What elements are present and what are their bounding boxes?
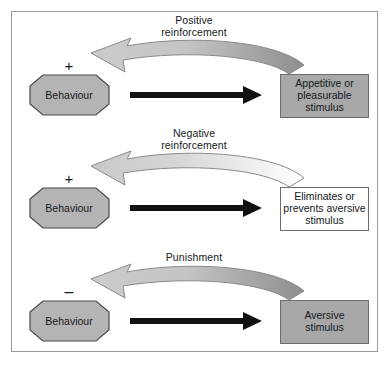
curved-arrow-punishment xyxy=(91,264,304,300)
behaviour-label-negative: Behaviour xyxy=(23,202,115,214)
stimulus-box-negative: Eliminates or prevents aversive stimulus xyxy=(280,187,369,231)
diagram-canvas: Positive reinforcement + Behaviour xyxy=(0,0,390,365)
black-arrow-negative xyxy=(130,199,262,217)
diagram-frame: Positive reinforcement + Behaviour xyxy=(11,11,378,352)
black-arrow-punishment xyxy=(130,312,262,330)
stimulus-box-punishment: Aversive stimulus xyxy=(280,300,369,344)
row-negative-reinforcement: Negative reinforcement + Behaviour Elimi… xyxy=(12,125,379,238)
sign-punishment: – xyxy=(61,284,77,299)
curved-arrow-negative xyxy=(91,151,304,187)
row-punishment: Punishment – Behaviour Aversive stimulus xyxy=(12,238,379,351)
behaviour-label-positive: Behaviour xyxy=(23,89,115,101)
behaviour-label-punishment: Behaviour xyxy=(23,315,115,327)
curved-arrow-positive xyxy=(91,38,304,74)
stimulus-box-positive: Appetitive or pleasurable stimulus xyxy=(280,74,369,118)
sign-negative: + xyxy=(61,171,77,186)
sign-positive: + xyxy=(61,58,77,73)
black-arrow-positive xyxy=(130,86,262,104)
row-positive-reinforcement: Positive reinforcement + Behaviour xyxy=(12,12,379,125)
